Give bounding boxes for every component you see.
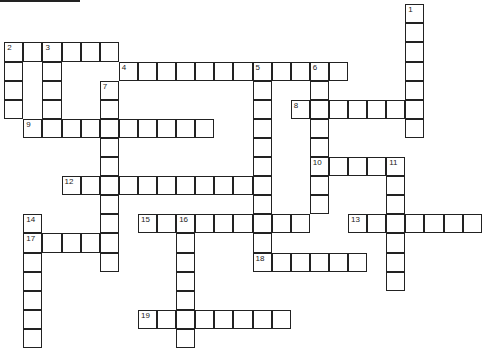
crossword-cell[interactable] bbox=[272, 253, 291, 272]
crossword-cell[interactable] bbox=[386, 176, 405, 195]
crossword-cell[interactable] bbox=[405, 62, 424, 81]
crossword-cell[interactable]: 7 bbox=[100, 81, 119, 100]
crossword-cell[interactable] bbox=[176, 272, 195, 291]
crossword-cell[interactable] bbox=[214, 310, 233, 329]
crossword-cell[interactable] bbox=[100, 157, 119, 176]
crossword-cell[interactable] bbox=[4, 81, 23, 100]
crossword-cell[interactable]: 18 bbox=[253, 253, 272, 272]
crossword-cell[interactable] bbox=[405, 100, 424, 119]
crossword-cell[interactable] bbox=[253, 214, 272, 233]
crossword-cell[interactable] bbox=[195, 176, 214, 195]
crossword-cell[interactable] bbox=[100, 253, 119, 272]
crossword-cell[interactable] bbox=[195, 119, 214, 138]
crossword-cell[interactable] bbox=[214, 176, 233, 195]
crossword-cell[interactable] bbox=[272, 214, 291, 233]
crossword-cell[interactable] bbox=[386, 100, 405, 119]
crossword-cell[interactable] bbox=[310, 100, 329, 119]
crossword-cell[interactable] bbox=[405, 23, 424, 42]
crossword-cell[interactable] bbox=[386, 233, 405, 252]
crossword-cell[interactable] bbox=[100, 100, 119, 119]
crossword-cell[interactable]: 1 bbox=[405, 4, 424, 23]
crossword-cell[interactable] bbox=[386, 253, 405, 272]
crossword-cell[interactable] bbox=[329, 62, 348, 81]
crossword-cell[interactable] bbox=[405, 81, 424, 100]
crossword-cell[interactable] bbox=[157, 62, 176, 81]
crossword-cell[interactable]: 2 bbox=[4, 42, 23, 61]
crossword-cell[interactable] bbox=[253, 119, 272, 138]
crossword-cell[interactable] bbox=[310, 119, 329, 138]
crossword-cell[interactable] bbox=[329, 253, 348, 272]
crossword-cell[interactable]: 5 bbox=[253, 62, 272, 81]
crossword-cell[interactable]: 3 bbox=[42, 42, 61, 61]
crossword-cell[interactable] bbox=[100, 195, 119, 214]
crossword-cell[interactable] bbox=[23, 253, 42, 272]
crossword-cell[interactable] bbox=[310, 81, 329, 100]
crossword-cell[interactable] bbox=[405, 214, 424, 233]
crossword-cell[interactable] bbox=[4, 62, 23, 81]
crossword-cell[interactable] bbox=[81, 119, 100, 138]
crossword-cell[interactable] bbox=[81, 233, 100, 252]
crossword-cell[interactable] bbox=[42, 100, 61, 119]
crossword-cell[interactable] bbox=[176, 329, 195, 348]
crossword-cell[interactable] bbox=[405, 119, 424, 138]
crossword-cell[interactable] bbox=[23, 42, 42, 61]
crossword-cell[interactable] bbox=[253, 100, 272, 119]
crossword-cell[interactable] bbox=[253, 195, 272, 214]
crossword-cell[interactable] bbox=[23, 329, 42, 348]
crossword-cell[interactable]: 8 bbox=[291, 100, 310, 119]
crossword-cell[interactable] bbox=[253, 233, 272, 252]
crossword-cell[interactable] bbox=[233, 214, 252, 233]
crossword-cell[interactable] bbox=[23, 310, 42, 329]
crossword-cell[interactable] bbox=[310, 138, 329, 157]
crossword-cell[interactable] bbox=[386, 272, 405, 291]
crossword-cell[interactable] bbox=[157, 119, 176, 138]
crossword-cell[interactable] bbox=[253, 176, 272, 195]
crossword-cell[interactable] bbox=[386, 214, 405, 233]
crossword-cell[interactable] bbox=[100, 214, 119, 233]
crossword-cell[interactable] bbox=[272, 62, 291, 81]
crossword-cell[interactable] bbox=[310, 195, 329, 214]
crossword-cell[interactable] bbox=[23, 272, 42, 291]
crossword-cell[interactable] bbox=[138, 176, 157, 195]
crossword-cell[interactable] bbox=[4, 100, 23, 119]
crossword-cell[interactable]: 17 bbox=[23, 233, 42, 252]
crossword-cell[interactable]: 14 bbox=[23, 214, 42, 233]
crossword-cell[interactable] bbox=[291, 214, 310, 233]
crossword-cell[interactable] bbox=[272, 310, 291, 329]
crossword-cell[interactable] bbox=[176, 253, 195, 272]
crossword-cell[interactable] bbox=[424, 214, 443, 233]
crossword-cell[interactable] bbox=[214, 62, 233, 81]
crossword-cell[interactable] bbox=[291, 253, 310, 272]
crossword-cell[interactable] bbox=[367, 157, 386, 176]
crossword-cell[interactable] bbox=[42, 233, 61, 252]
crossword-cell[interactable] bbox=[367, 214, 386, 233]
crossword-cell[interactable]: 6 bbox=[310, 62, 329, 81]
crossword-cell[interactable] bbox=[348, 100, 367, 119]
crossword-cell[interactable] bbox=[100, 119, 119, 138]
crossword-cell[interactable] bbox=[463, 214, 482, 233]
crossword-cell[interactable] bbox=[138, 62, 157, 81]
crossword-cell[interactable] bbox=[329, 100, 348, 119]
crossword-cell[interactable] bbox=[233, 176, 252, 195]
crossword-cell[interactable] bbox=[62, 42, 81, 61]
crossword-cell[interactable] bbox=[176, 119, 195, 138]
crossword-cell[interactable] bbox=[23, 291, 42, 310]
crossword-cell[interactable] bbox=[42, 119, 61, 138]
crossword-cell[interactable] bbox=[329, 157, 348, 176]
crossword-cell[interactable] bbox=[233, 62, 252, 81]
crossword-cell[interactable] bbox=[157, 310, 176, 329]
crossword-cell[interactable] bbox=[253, 81, 272, 100]
crossword-cell[interactable]: 19 bbox=[138, 310, 157, 329]
crossword-cell[interactable]: 11 bbox=[386, 157, 405, 176]
crossword-cell[interactable] bbox=[405, 42, 424, 61]
crossword-cell[interactable]: 15 bbox=[138, 214, 157, 233]
crossword-cell[interactable]: 10 bbox=[310, 157, 329, 176]
crossword-cell[interactable]: 16 bbox=[176, 214, 195, 233]
crossword-cell[interactable] bbox=[176, 291, 195, 310]
crossword-cell[interactable] bbox=[444, 214, 463, 233]
crossword-cell[interactable] bbox=[157, 214, 176, 233]
crossword-cell[interactable] bbox=[62, 119, 81, 138]
crossword-cell[interactable] bbox=[42, 81, 61, 100]
crossword-cell[interactable]: 4 bbox=[119, 62, 138, 81]
crossword-cell[interactable] bbox=[176, 62, 195, 81]
